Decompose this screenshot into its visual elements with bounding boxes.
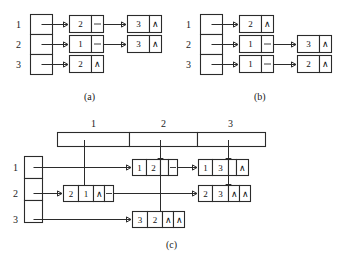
panel-c-node-field: 1 [78, 190, 94, 199]
panel-c-node-field: 3 [132, 216, 148, 225]
panel-b-node-value: 1 [239, 40, 262, 49]
panel-c-node-field: 1 [132, 164, 147, 173]
panel-c-column-head-array [58, 133, 266, 147]
panel-b-node-value: 1 [239, 60, 262, 69]
panel-c-caption: (c) [166, 240, 177, 250]
panel-a-node-value: 1 [69, 40, 92, 49]
panel-b-caption: (b) [254, 92, 266, 102]
panel-b-node-value: 2 [239, 20, 262, 29]
panel-b-row-label-1: 1 [186, 20, 191, 30]
panel-b-node-value: 3 [297, 40, 320, 49]
panel-a-row-label-3: 3 [16, 60, 21, 70]
panel-c-null-link-icon: ∧ [236, 164, 249, 173]
panel-a-row-label-1: 1 [16, 20, 21, 30]
panel-c-col1-vertical-link [82, 140, 87, 190]
panel-c-row-head-array [25, 157, 43, 223]
panel-b-row-label-3: 3 [186, 60, 191, 70]
panel-a-row-label-2: 2 [16, 40, 21, 50]
panel-c-node-field: 2 [146, 164, 161, 173]
panel-a-node-value: 3 [127, 20, 150, 29]
panel-c-col2-vertical-link [158, 140, 163, 216]
panel-c-node-field: 1 [198, 164, 213, 173]
panel-a-null-link-icon: ∧ [149, 40, 162, 49]
panel-c-row-label-2: 2 [13, 189, 18, 199]
panel-a-null-link-icon: ∧ [91, 60, 104, 69]
panel-c-null-link-icon: ∧ [239, 190, 251, 199]
panel-c-node-field: 2 [63, 190, 79, 199]
panel-c-row2-links [34, 191, 198, 196]
panel-c-node-field: 3 [212, 190, 229, 199]
panel-a-node-value: 2 [69, 20, 92, 29]
panel-b-null-link-icon: ∧ [261, 20, 274, 29]
panel-b-node-value: 2 [297, 60, 320, 69]
panel-b-null-link-icon: ∧ [319, 40, 332, 49]
panel-b-null-link-icon: ∧ [319, 60, 332, 69]
panel-a-node-value: 3 [127, 40, 150, 49]
panel-c-node-field: 2 [147, 216, 163, 225]
panel-c-node-field: 2 [198, 190, 213, 199]
panel-a-node-value: 2 [69, 60, 92, 69]
panel-c-row-label-3: 3 [13, 215, 18, 225]
panel-c-row-label-1: 1 [13, 163, 18, 173]
panel-c-null-link-icon: ∧ [173, 216, 185, 225]
panel-c-column-label-3: 3 [228, 119, 233, 129]
panel-b-row-label-2: 2 [186, 40, 191, 50]
panel-c-column-label-1: 1 [91, 119, 96, 129]
panel-a-caption: (a) [84, 92, 95, 102]
panel-c-null-link-icon: ∧ [93, 190, 105, 199]
panel-c-node-field: 3 [212, 164, 229, 173]
panel-a-null-link-icon: ∧ [149, 20, 162, 29]
panel-c-row3-links [34, 217, 132, 222]
panel-c-column-label-2: 2 [161, 119, 166, 129]
sparse-matrix-linked-list-figure: 1 2 3 2 3 ∧ 1 3 ∧ 2 ∧ (a) 1 2 3 2 ∧ 1 3 … [0, 0, 345, 262]
